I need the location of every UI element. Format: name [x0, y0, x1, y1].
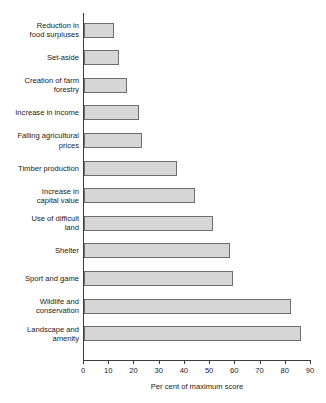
bar-category-label: Timber production: [0, 164, 79, 173]
x-tick-mark: [83, 360, 84, 364]
bar-row: Creation of farm forestry: [0, 78, 326, 94]
bar-category-label: Sport and game: [0, 274, 79, 283]
bar: [84, 161, 177, 176]
bar-category-label: Shelter: [0, 246, 79, 255]
bar: [84, 50, 119, 65]
x-tick-label: 30: [146, 366, 172, 375]
x-axis-line: [83, 360, 311, 361]
x-tick-label: 40: [171, 366, 197, 375]
x-tick-mark: [285, 360, 286, 364]
bar-row: Reduction in food surpluses: [0, 23, 326, 39]
bar: [84, 78, 127, 93]
bar-row: Increase in income: [0, 105, 326, 121]
bar-row: Falling agricultural prices: [0, 133, 326, 149]
bar: [84, 188, 195, 203]
bar-row: Increase in capital value: [0, 188, 326, 204]
x-tick-mark: [209, 360, 210, 364]
plot-area: Reduction in food surplusesSet-asideCrea…: [0, 0, 326, 403]
bar: [84, 299, 291, 314]
x-tick-label: 80: [272, 366, 298, 375]
x-tick-mark: [184, 360, 185, 364]
bar-category-label: Use of difficult land: [0, 214, 79, 232]
bar-chart: Reduction in food surplusesSet-asideCrea…: [0, 0, 326, 403]
bar: [84, 271, 233, 286]
bar-category-label: Wildlife and conservation: [0, 297, 79, 315]
bar: [84, 326, 301, 341]
x-tick-label: 60: [221, 366, 247, 375]
bar-category-label: Increase in income: [0, 108, 79, 117]
x-tick-label: 0: [70, 366, 96, 375]
bar-category-label: Increase in capital value: [0, 187, 79, 205]
x-tick-mark: [260, 360, 261, 364]
x-tick-mark: [159, 360, 160, 364]
x-tick-label: 90: [297, 366, 323, 375]
bar: [84, 243, 230, 258]
x-tick-mark: [133, 360, 134, 364]
bar-category-label: Set-aside: [0, 53, 79, 62]
bar: [84, 23, 114, 38]
bar-row: Shelter: [0, 243, 326, 259]
bar: [84, 105, 139, 120]
x-tick-label: 10: [95, 366, 121, 375]
x-axis-title: Per cent of maximum score: [83, 382, 311, 391]
bar-row: Use of difficult land: [0, 216, 326, 232]
x-tick-label: 50: [196, 366, 222, 375]
x-tick-mark: [108, 360, 109, 364]
bar: [84, 216, 213, 231]
bar-row: Wildlife and conservation: [0, 299, 326, 315]
bar-row: Set-aside: [0, 50, 326, 66]
bar-category-label: Creation of farm forestry: [0, 76, 79, 94]
bar-row: Landscape and amenity: [0, 326, 326, 342]
bar-category-label: Falling agricultural prices: [0, 131, 79, 149]
x-tick-mark: [310, 360, 311, 364]
bar: [84, 133, 142, 148]
bar-category-label: Reduction in food surpluses: [0, 21, 79, 39]
x-tick-mark: [234, 360, 235, 364]
bar-category-label: Landscape and amenity: [0, 325, 79, 343]
x-tick-label: 70: [247, 366, 273, 375]
x-tick-label: 20: [120, 366, 146, 375]
bar-row: Timber production: [0, 161, 326, 177]
bar-row: Sport and game: [0, 271, 326, 287]
